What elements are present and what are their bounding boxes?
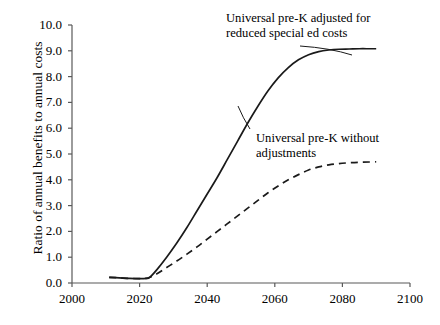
y-tick-label-9: 9.0	[22, 44, 62, 57]
y-tick-label-10: 10.0	[22, 18, 62, 31]
plot-area	[0, 0, 440, 325]
y-tick-label-8: 8.0	[22, 70, 62, 83]
chart-container: Ratio of annual benefits to annual costs…	[0, 0, 440, 325]
y-tick-label-6: 6.0	[22, 121, 62, 134]
annotation-dashed-line2: adjustments	[256, 146, 379, 161]
y-tick-label-7: 7.0	[22, 95, 62, 108]
x-tick-label-1: 2020	[110, 292, 170, 305]
x-tick-label-4: 2080	[312, 292, 372, 305]
x-tick-label-3: 2060	[245, 292, 305, 305]
x-tick-label-5: 2100	[380, 292, 440, 305]
annotation-solid-line1: Universal pre-K adjusted for	[226, 11, 370, 26]
annotation-leader-lines	[238, 46, 352, 129]
series-line-0	[109, 49, 376, 279]
annotation-dashed-series: Universal pre-K without adjustments	[256, 131, 379, 160]
series-line-1	[109, 162, 376, 279]
x-tick-label-2: 2040	[177, 292, 237, 305]
annotation-solid-series: Universal pre-K adjusted for reduced spe…	[226, 11, 370, 40]
y-tick-label-1: 1.0	[22, 250, 62, 263]
annotation-dashed-line1: Universal pre-K without	[256, 131, 379, 146]
y-tick-label-3: 3.0	[22, 199, 62, 212]
data-series	[109, 49, 376, 279]
y-tick-label-2: 2.0	[22, 224, 62, 237]
x-tick-label-0: 2000	[42, 292, 102, 305]
y-tick-label-5: 5.0	[22, 147, 62, 160]
y-tick-label-4: 4.0	[22, 173, 62, 186]
annotation-solid-line2: reduced special ed costs	[226, 26, 370, 41]
y-tick-label-0: 0.0	[22, 276, 62, 289]
